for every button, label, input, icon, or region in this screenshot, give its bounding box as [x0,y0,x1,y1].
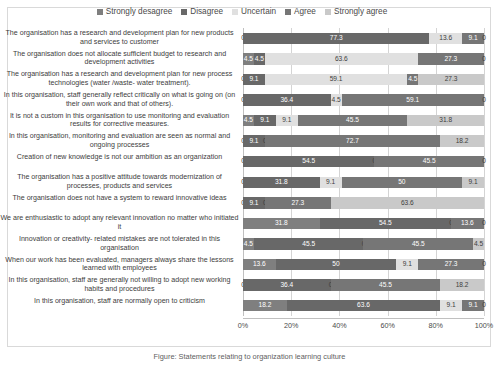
bar-segment[interactable]: 4.5 [473,238,484,250]
bar-segment[interactable]: 63.6 [331,197,484,209]
bar-segment[interactable]: 54.5 [320,218,451,230]
category-label-0: The organisation has a research and deve… [0,29,239,46]
bar-row[interactable]: 18.263.69.19.10 [243,300,484,312]
bar-row[interactable]: 4.59.19.145.531.8 [243,115,484,127]
bar-value-label: 36.4 [280,282,293,289]
bar-value-label: 4.5 [244,241,253,248]
bar-row[interactable]: 054.5045.50 [243,156,484,168]
bar-value-label: 31.8 [275,179,288,186]
bar-segment[interactable]: 18.2 [440,135,484,147]
legend-item-4[interactable]: Strongly agree [325,8,387,16]
figure-caption: Figure: Statements relating to organizat… [0,352,499,366]
bar-segment[interactable]: 77.3 [243,33,429,45]
bar-segment[interactable]: 50 [342,177,463,189]
bar-segment[interactable]: 27.3 [418,53,484,65]
legend-item-2[interactable]: Uncertain [232,8,276,16]
x-tick-label: 20% [284,321,298,330]
bar-value-label: 27.3 [291,200,304,207]
bar-segment[interactable]: 4.5 [254,53,265,65]
bar-segment[interactable]: 4.5 [243,53,254,65]
bar-segment[interactable]: 31.8 [243,218,320,230]
bar-value-label: 54.5 [302,158,315,165]
plot-area: 077.313.69.104.54.563.627.3009.159.14.52… [243,28,484,316]
bar-value-label: 36.4 [280,97,293,104]
bar-segment[interactable]: 9.1 [462,177,484,189]
bar-row[interactable]: 036.44.559.10 [243,94,484,106]
legend-swatch-icon [97,9,103,15]
bar-segment[interactable]: 27.3 [418,74,484,86]
bar-value-label: 63.6 [357,302,370,309]
category-label-6: Creation of new knowledge is not our amb… [0,153,239,162]
bar-segment[interactable]: 45.5 [331,279,441,291]
bar-value-label: 0 [482,261,486,268]
category-label-4: It is not a custom in this organisation … [0,112,239,129]
bar-value-label: 54.5 [379,220,392,227]
bar-segment[interactable]: 4.5 [243,115,254,127]
bar-row[interactable]: 036.4045.518.2 [243,279,484,291]
bar-segment[interactable]: 13.6 [429,33,462,45]
bar-segment[interactable]: 72.7 [265,135,440,147]
bar-row[interactable]: 09.1027.363.6 [243,197,484,209]
bar-segment[interactable]: 9.1 [243,135,265,147]
bar-row[interactable]: 4.545.5045.54.5 [243,238,484,250]
bar-segment[interactable]: 45.5 [298,115,408,127]
gridline-40 [339,28,340,316]
bar-value-label: 18.2 [259,302,272,309]
x-axis-line [243,318,484,319]
bar-segment[interactable]: 27.3 [418,259,484,271]
bar-row[interactable]: 09.1072.718.2 [243,135,484,147]
bar-segment[interactable]: 63.6 [265,53,418,65]
bar-segment[interactable]: 36.4 [243,94,331,106]
bar-segment[interactable]: 9.1 [440,300,462,312]
bar-value-label: 9.1 [326,179,335,186]
bar-segment[interactable]: 9.1 [462,33,484,45]
bar-segment[interactable]: 9.1 [254,115,276,127]
bar-segment[interactable]: 9.1 [276,115,298,127]
bar-segment[interactable]: 4.5 [407,74,418,86]
x-tick-label: 80% [429,321,443,330]
bar-row[interactable]: 031.89.1509.1 [243,177,484,189]
bar-segment[interactable]: 9.1 [243,74,265,86]
chart-legend: Strongly desagreeDisagreeUncertainAgreeS… [0,8,484,16]
bar-segment[interactable]: 13.6 [451,218,484,230]
bar-segment[interactable]: 9.1 [320,177,342,189]
bar-value-label: 27.3 [445,76,458,83]
bar-segment[interactable]: 31.8 [407,115,484,127]
bar-row[interactable]: 31.854.5013.60 [243,218,484,230]
bar-row[interactable]: 4.54.563.627.30 [243,53,484,65]
x-tick-label: 60% [380,321,394,330]
bar-segment[interactable]: 36.4 [243,279,331,291]
bar-segment[interactable]: 31.8 [243,177,320,189]
legend-label: Strongly desagree [106,8,172,16]
bar-segment[interactable]: 63.6 [287,300,440,312]
bar-row[interactable]: 077.313.69.10 [243,33,484,45]
bar-segment[interactable]: 59.1 [265,74,407,86]
bar-segment[interactable]: 9.1 [396,259,418,271]
legend-swatch-icon [181,9,187,15]
category-label-2: The organisation has a research and deve… [0,70,239,87]
legend-item-1[interactable]: Disagree [181,8,223,16]
bar-row[interactable]: 13.6509.127.30 [243,259,484,271]
bar-segment[interactable]: 9.1 [462,300,484,312]
bar-segment[interactable]: 4.5 [243,238,254,250]
bar-segment[interactable]: 4.5 [331,94,342,106]
gridline-100 [484,28,485,316]
bar-value-label: 50 [332,261,339,268]
legend-item-3[interactable]: Agree [285,8,316,16]
bar-segment[interactable]: 54.5 [243,156,374,168]
bar-segment[interactable]: 18.2 [243,300,287,312]
bar-segment[interactable]: 9.1 [243,197,265,209]
bar-row[interactable]: 09.159.14.527.3 [243,74,484,86]
bar-segment[interactable]: 18.2 [440,279,484,291]
bar-segment[interactable]: 27.3 [265,197,331,209]
bar-segment[interactable]: 45.5 [254,238,364,250]
bar-value-label: 4.5 [244,56,253,63]
bar-segment[interactable]: 50 [276,259,397,271]
bar-segment[interactable]: 45.5 [374,156,484,168]
legend-label: Strongly agree [334,8,387,16]
legend-item-0[interactable]: Strongly desagree [97,8,172,16]
bar-value-label: 9.1 [447,302,456,309]
bar-segment[interactable]: 13.6 [243,259,276,271]
bar-segment[interactable]: 45.5 [363,238,473,250]
bar-segment[interactable]: 59.1 [342,94,484,106]
